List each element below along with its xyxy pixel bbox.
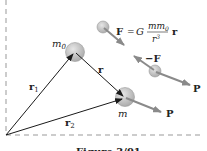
label-P-upper: P xyxy=(193,83,201,94)
vector-r1 xyxy=(6,54,73,135)
svg-text:r3: r3 xyxy=(152,33,160,44)
svg-text:r: r xyxy=(172,26,178,37)
label-r2: r2 xyxy=(65,117,75,130)
svg-text:=: = xyxy=(127,27,135,37)
mass-m-sphere xyxy=(116,88,135,107)
label-m0: m0 xyxy=(52,38,66,51)
arrow-P-from-m xyxy=(126,98,161,112)
label-r1: r1 xyxy=(29,81,39,94)
figure-caption: Figure 3/91 xyxy=(76,146,141,151)
vector-r2 xyxy=(6,99,122,135)
gravitation-equation: F = G mm0 r3 r xyxy=(116,21,178,44)
svg-text:F: F xyxy=(116,26,123,37)
label-minus-F: −F xyxy=(145,53,160,64)
label-m: m xyxy=(118,108,127,119)
svg-text:G: G xyxy=(136,26,144,37)
label-r: r xyxy=(98,64,104,75)
arrow-P-from-lower-sphere xyxy=(156,72,190,85)
gravitation-vector-diagram: m0 m r r1 r2 P P −F F = G mm0 r3 r Figur… xyxy=(0,0,207,151)
label-P-lower: P xyxy=(166,108,174,119)
svg-text:mm0: mm0 xyxy=(148,21,169,32)
